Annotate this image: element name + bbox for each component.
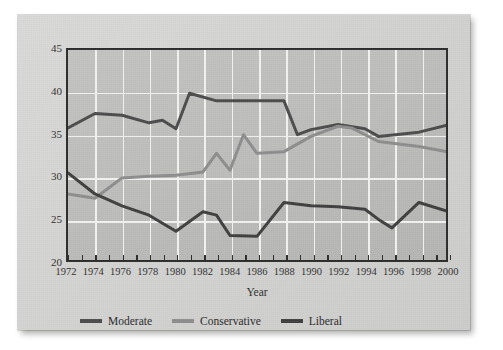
screenshot-root: Percentage of Respondents 202530354045 1… [0, 0, 503, 350]
data-lines [68, 50, 446, 262]
y-tick-label: 35 [28, 129, 62, 140]
axis-tick-mark [218, 255, 219, 260]
axis-tick-mark [164, 255, 165, 260]
axis-tick-mark [436, 255, 437, 260]
axis-tick-mark [232, 255, 233, 260]
x-axis-label: Year [66, 286, 448, 298]
y-tick-label: 40 [28, 86, 62, 97]
series-line-liberal [68, 173, 446, 237]
x-axis-ticks: 1972197419761978198019821984198619881990… [66, 267, 448, 283]
axis-tick-mark [259, 255, 260, 260]
axis-tick-mark [395, 255, 396, 260]
axis-tick-mark [95, 255, 96, 260]
legend-swatch-icon [281, 319, 303, 323]
legend-label: Liberal [309, 315, 342, 327]
y-axis-ticks: 202530354045 [26, 48, 62, 262]
axis-tick-mark [123, 255, 124, 260]
plot-area [66, 48, 448, 262]
y-tick-label: 25 [28, 214, 62, 225]
legend-label: Conservative [200, 315, 261, 327]
axis-tick-mark [409, 255, 410, 260]
axis-tick-mark [245, 255, 246, 260]
legend-label: Moderate [108, 315, 152, 327]
axis-tick-mark [109, 255, 110, 260]
legend-item-conservative[interactable]: Conservative [172, 315, 261, 327]
axis-tick-mark [191, 255, 192, 260]
legend-swatch-icon [80, 319, 102, 323]
axis-tick-mark [136, 255, 137, 260]
axis-tick-mark [341, 255, 342, 260]
axis-tick-mark [382, 255, 383, 260]
chart-legend: ModerateConservativeLiberal [66, 312, 448, 330]
axis-tick-mark [68, 255, 69, 260]
y-tick-label: 45 [28, 43, 62, 54]
axis-tick-mark [286, 255, 287, 260]
legend-swatch-icon [172, 319, 194, 323]
x-tick-label: 2000 [431, 267, 465, 278]
series-line-conservative [68, 126, 446, 198]
axis-tick-mark [273, 255, 274, 260]
axis-tick-mark [450, 255, 451, 260]
axis-tick-mark [314, 255, 315, 260]
axis-tick-mark [327, 255, 328, 260]
axis-tick-mark [150, 255, 151, 260]
series-line-moderate [68, 93, 446, 136]
legend-item-liberal[interactable]: Liberal [281, 315, 342, 327]
axis-tick-mark [300, 255, 301, 260]
axis-tick-mark [82, 255, 83, 260]
axis-tick-mark [368, 255, 369, 260]
figure-card: Percentage of Respondents 202530354045 1… [18, 15, 470, 330]
axis-tick-mark [423, 255, 424, 260]
axis-tick-mark [204, 255, 205, 260]
axis-tick-mark [177, 255, 178, 260]
legend-item-moderate[interactable]: Moderate [80, 315, 152, 327]
axis-tick-mark [355, 255, 356, 260]
y-tick-label: 30 [28, 171, 62, 182]
